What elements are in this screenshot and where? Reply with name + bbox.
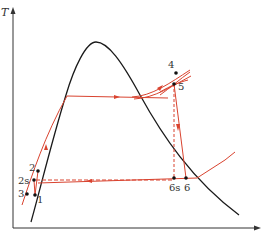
point-2s	[32, 178, 36, 182]
pump-line	[35, 171, 38, 195]
s-axis-arrow-icon	[254, 226, 261, 231]
label-2s: 2s	[18, 175, 30, 186]
label-3: 3	[18, 188, 24, 199]
label-4: 4	[168, 59, 174, 70]
point-4	[174, 71, 178, 75]
point-5	[172, 82, 176, 86]
t-axis-arrow-icon	[11, 7, 16, 14]
low-pressure-isobar	[197, 152, 235, 178]
point-6	[184, 176, 188, 180]
expansion-line	[174, 84, 186, 178]
pump-isentropic-line	[34, 180, 35, 195]
ts-diagram: T	[0, 0, 264, 233]
label-6s: 6s	[169, 182, 181, 193]
flow-arrow-icon	[44, 144, 48, 150]
t-axis-label: T	[1, 6, 10, 19]
saturation-dome	[31, 42, 239, 222]
point-3	[25, 192, 29, 196]
label-2: 2	[29, 162, 35, 173]
label-1: 1	[37, 194, 43, 205]
point-2	[36, 169, 40, 173]
point-6s	[172, 176, 176, 180]
label-6: 6	[184, 182, 190, 193]
flow-arrow-icon	[114, 95, 120, 99]
label-5: 5	[178, 81, 184, 92]
